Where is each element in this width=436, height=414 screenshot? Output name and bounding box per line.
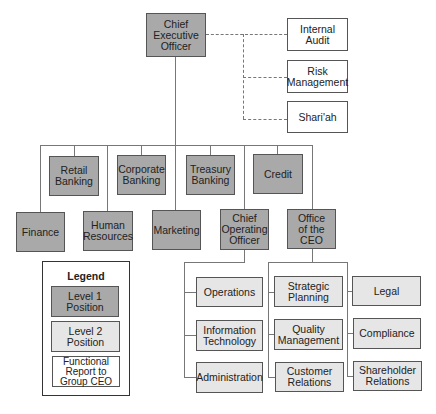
finance-box: Finance: [16, 212, 65, 252]
connector: [40, 145, 41, 212]
connector: [175, 145, 176, 210]
shareholder-relations-box: Shareholder Relations: [353, 361, 422, 391]
connector: [74, 145, 75, 156]
legend-title: Legend: [43, 270, 129, 282]
customer-relations-box: Customer Relations: [275, 362, 344, 392]
ceo-box: Chief Executive Officer: [146, 13, 206, 57]
legend-level1: Level 1 Position: [51, 286, 119, 317]
human-resources-box: Human Resources: [83, 211, 133, 251]
functional-line: [243, 77, 287, 78]
marketing-box: Marketing: [152, 210, 201, 250]
information-technology-box: Information Technology: [196, 320, 263, 351]
legal-box: Legal: [352, 276, 421, 306]
compliance-box: Compliance: [353, 318, 421, 349]
internal-audit-box: Internal Audit: [287, 18, 348, 51]
connector: [268, 262, 269, 377]
connector: [184, 292, 196, 293]
connector: [312, 145, 313, 209]
treasury-banking-box: Treasury Banking: [186, 155, 235, 195]
connector: [184, 262, 245, 263]
legend-level2: Level 2 Position: [51, 321, 120, 352]
office-of-ceo-box: Office of the CEO: [287, 209, 336, 249]
risk-management-box: Risk Management: [287, 60, 348, 93]
connector: [184, 262, 185, 378]
strategic-planning-box: Strategic Planning: [274, 276, 343, 307]
credit-box: Credit: [253, 154, 303, 194]
corporate-banking-box: Corporate Banking: [117, 155, 166, 195]
ceo-trunk-line: [175, 57, 176, 145]
legend-functional: Functional Report to Group CEO: [52, 356, 120, 387]
connector: [244, 145, 245, 209]
connector: [184, 335, 196, 336]
functional-line: [206, 34, 287, 35]
connector: [268, 377, 275, 378]
connector: [107, 145, 108, 211]
connector: [347, 262, 348, 377]
quality-management-box: Quality Management: [274, 319, 343, 350]
connector: [210, 145, 211, 155]
administration-box: Administration: [196, 362, 263, 393]
connector: [312, 249, 313, 262]
connector: [277, 145, 278, 154]
level1-bus-line: [40, 145, 312, 146]
coo-box: Chief Operating Officer: [220, 209, 269, 250]
connector: [244, 250, 245, 262]
connector: [184, 377, 196, 378]
connector: [268, 262, 347, 263]
operations-box: Operations: [196, 277, 263, 307]
connector: [141, 145, 142, 155]
shariah-box: Shari'ah: [287, 101, 348, 133]
retail-banking-box: Retail Banking: [49, 156, 99, 196]
functional-line: [243, 119, 287, 120]
